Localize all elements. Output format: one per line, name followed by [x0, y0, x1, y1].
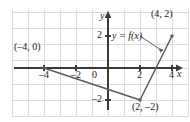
x-tick-label-2: 2: [137, 70, 142, 80]
y-tick-label--2: –2: [92, 94, 102, 104]
x-tick-label-4: 4: [169, 70, 174, 80]
x-tick-label-0: 0: [92, 70, 97, 80]
x-tick-label--2: –2: [71, 70, 81, 80]
x-tick-label--4: –4: [39, 70, 49, 80]
y-axis-name: y: [100, 11, 104, 21]
graph-figure: –4 –2 0 2 4 2 –2 x y (–4, 0) (2, –2) (4,…: [0, 0, 190, 122]
x-axis-name: x: [177, 69, 181, 79]
point-label-vertex: (2, –2): [132, 102, 159, 112]
point-label-left-endpoint: (–4, 0): [14, 42, 41, 52]
y-tick-label-2: 2: [97, 30, 102, 40]
point-label-right-endpoint: (4, 2): [151, 9, 173, 19]
data-point-right: [170, 34, 173, 37]
function-label: y = f(x): [112, 31, 142, 41]
